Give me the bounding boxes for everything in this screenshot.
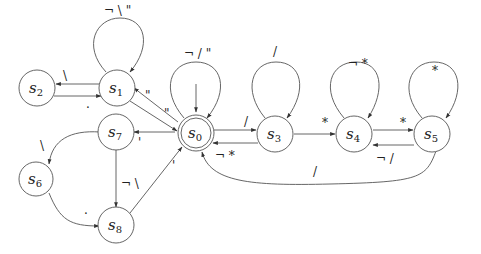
label-s0-s1: " bbox=[145, 89, 151, 103]
label-s0-s0: ¬ / " bbox=[184, 47, 211, 61]
edge-s0-s0 bbox=[170, 62, 220, 118]
state-s8: s8 bbox=[98, 207, 134, 243]
edge-s1-s1 bbox=[94, 18, 144, 72]
state-s3: s3 bbox=[257, 116, 293, 152]
label-s0-s7: ' bbox=[138, 136, 141, 150]
state-s0: s0 bbox=[178, 115, 214, 151]
edge-s6-s8 bbox=[49, 193, 99, 226]
edge-s7-s6 bbox=[49, 132, 100, 164]
label-s0-s3: / bbox=[244, 115, 249, 129]
label-s4-s5: * bbox=[400, 116, 406, 130]
label-s6-s8: . bbox=[84, 203, 88, 217]
label-s1-s0: " bbox=[164, 107, 170, 121]
label-s3-s4: * bbox=[322, 116, 328, 130]
state-s1: s1 bbox=[99, 70, 135, 106]
label-s7-s6: \ bbox=[40, 139, 45, 153]
label-s5-s0: / bbox=[313, 165, 318, 179]
state-s4: s4 bbox=[336, 116, 372, 152]
state-diagram: s0 s1 s2 s3 s4 s5 s6 s7 s8 ¬ / " ¬ \ " /… bbox=[0, 0, 481, 254]
label-s5-s4: ¬ / bbox=[376, 152, 395, 166]
label-s8-s0: ' bbox=[172, 159, 175, 173]
label-s1-s2: \ bbox=[63, 69, 68, 83]
edge-s3-s3 bbox=[252, 62, 300, 118]
label-s7-s8: ¬ \ bbox=[121, 177, 140, 191]
label-s3-s3: / bbox=[273, 45, 278, 59]
label-s5-s5: * bbox=[432, 64, 438, 78]
state-s2: s2 bbox=[19, 70, 55, 106]
label-s1-s1: ¬ \ " bbox=[104, 4, 131, 18]
label-s2-s1: . bbox=[86, 97, 90, 111]
label-s3-s0: ¬ * bbox=[215, 149, 235, 163]
state-s5: s5 bbox=[414, 116, 450, 152]
label-s4-s4: ¬ * bbox=[348, 57, 368, 71]
state-s7: s7 bbox=[98, 114, 134, 150]
edge-s5-s0 bbox=[202, 151, 436, 184]
state-s6: s6 bbox=[19, 162, 53, 196]
